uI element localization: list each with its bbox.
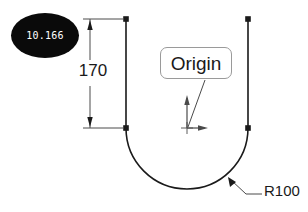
node-point-top-right	[245, 16, 251, 22]
origin-axis-right-arrow-icon	[198, 125, 208, 130]
radius-arrow-icon	[228, 177, 236, 187]
node-point-bottom-right	[245, 125, 251, 131]
technical-drawing-canvas: 10.166 170 Origin R100	[0, 0, 308, 212]
origin-callout-box[interactable]: Origin	[160, 47, 232, 79]
node-point-top-left	[123, 16, 129, 22]
origin-callout-label: Origin	[171, 54, 222, 73]
node-point-bottom-left	[123, 125, 129, 131]
origin-leader-line	[188, 80, 205, 127]
score-badge-label: 10.166	[26, 31, 63, 41]
radius-value-label: R100	[264, 183, 300, 198]
origin-axis-up-arrow-icon	[184, 95, 189, 105]
dimension-arrow-top-icon	[87, 20, 92, 30]
score-badge: 10.166	[11, 13, 79, 58]
dimension-arrow-bottom-icon	[87, 117, 92, 127]
dimension-value-label: 170	[72, 62, 114, 79]
